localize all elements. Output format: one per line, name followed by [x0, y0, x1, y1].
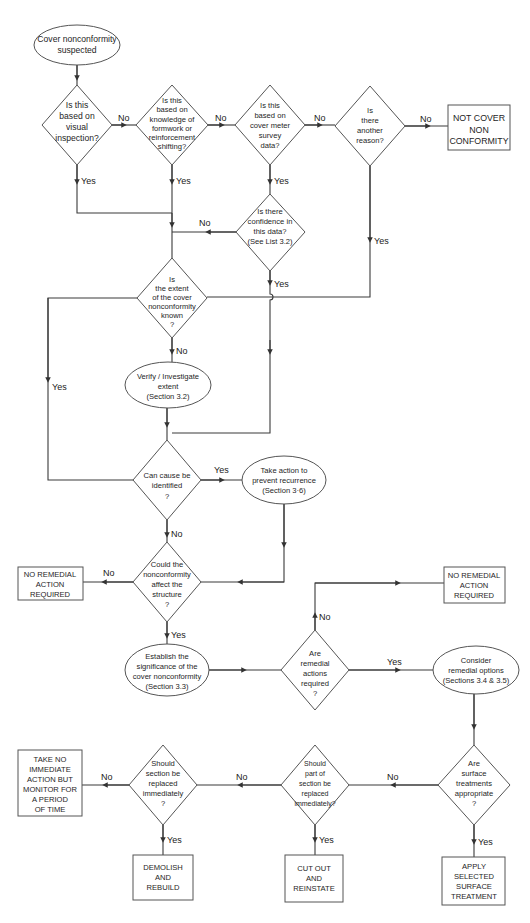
svg-text:(Section 3.3): (Section 3.3) [145, 682, 189, 691]
edge-label-yes: Yes [176, 176, 191, 186]
svg-text:part of: part of [305, 770, 325, 778]
svg-text:?: ? [313, 689, 317, 698]
decision-cover-meter: Is this based on cover meter survey data… [235, 85, 305, 165]
edge-label-no: No [199, 218, 211, 228]
svg-text:Verify / Investigate: Verify / Investigate [137, 372, 199, 381]
terminal-apply-surface-treatment: APPLY SELECTED SURFACE TREATMENT [442, 857, 505, 905]
svg-text:Is: Is [367, 106, 373, 115]
svg-text:TAKE NO: TAKE NO [34, 755, 67, 764]
svg-text:Should: Should [304, 760, 326, 767]
terminal-demolish-rebuild: DEMOLISH AND REBUILD [133, 855, 193, 900]
svg-text:visual: visual [66, 122, 88, 132]
decision-surface-treatments: Are surface treatments appropriate ? [438, 745, 510, 825]
decision-section-replace: Should section be replaced immediately ? [129, 745, 197, 825]
decision-another-reason: Is there another reason? [335, 86, 405, 166]
svg-text:based on: based on [254, 111, 285, 120]
decision-formwork-knowledge: Is this based on knowledge of formwork o… [136, 85, 208, 165]
svg-text:prevent recurrence: prevent recurrence [252, 476, 316, 485]
edge-label-no: No [101, 772, 113, 782]
svg-text:REINSTATE: REINSTATE [293, 884, 335, 893]
terminal-not-cover-nonconformity: NOT COVER NON CONFORMITY [448, 105, 510, 150]
svg-text:treatments: treatments [456, 779, 492, 788]
svg-text:reason?: reason? [356, 136, 383, 145]
start-node: Cover nonconformity suspected [34, 25, 120, 65]
svg-text:IMMEDIATE: IMMEDIATE [29, 765, 71, 774]
edge-label-no: No [118, 113, 130, 123]
svg-text:Is there: Is there [257, 207, 282, 216]
edge-label-yes: Yes [274, 176, 289, 186]
svg-text:inspection?: inspection? [55, 133, 99, 143]
edge-label-yes: Yes [167, 835, 182, 845]
svg-text:OF TIME: OF TIME [35, 805, 66, 814]
svg-text:shifting?: shifting? [158, 142, 186, 151]
svg-text:DEMOLISH: DEMOLISH [143, 863, 183, 872]
decision-part-replace: Should part of section be replaced immed… [281, 745, 349, 825]
svg-text:?: ? [165, 492, 169, 501]
terminal-no-remedial-right: NO REMEDIAL ACTION REQUIRED [444, 567, 505, 603]
svg-text:?: ? [161, 799, 165, 808]
svg-text:confidence in: confidence in [248, 217, 293, 226]
svg-text:Are: Are [468, 759, 480, 768]
svg-text:reinforcement: reinforcement [149, 133, 196, 142]
edge-label-yes: Yes [81, 176, 96, 186]
svg-text:immediately: immediately [143, 789, 184, 798]
decision-cause-identified: Can cause be identified ? [133, 440, 201, 520]
svg-text:Could the: Could the [151, 560, 184, 569]
svg-text:(Sections 3.4 & 3.5): (Sections 3.4 & 3.5) [443, 676, 510, 685]
svg-text:REQUIRED: REQUIRED [30, 590, 71, 599]
svg-text:knowledge of: knowledge of [150, 115, 196, 124]
svg-text:Should: Should [151, 759, 175, 768]
svg-text:replaced: replaced [302, 790, 329, 798]
edge-label-no: No [420, 114, 432, 124]
flowchart-canvas: No No No No Yes Yes Yes No Yes Yes No Ye… [0, 0, 530, 923]
svg-text:REQUIRED: REQUIRED [454, 591, 495, 600]
svg-text:based on: based on [156, 105, 187, 114]
edge-label-no: No [319, 612, 331, 622]
svg-text:TREATMENT: TREATMENT [451, 892, 497, 901]
svg-text:affect the: affect the [151, 580, 182, 589]
svg-text:formwork or: formwork or [152, 124, 193, 133]
svg-text:required: required [301, 679, 329, 688]
decision-affect-structure: Could the nonconformity affect the struc… [133, 542, 201, 622]
svg-text:Is: Is [169, 275, 175, 284]
svg-text:immediately?: immediately? [294, 800, 335, 808]
decision-extent-known: Is the extent of the cover nonconformity… [137, 258, 207, 338]
svg-text:Cover nonconformity: Cover nonconformity [37, 34, 117, 44]
svg-text:nonconformity: nonconformity [148, 302, 196, 311]
edge-label-yes: Yes [52, 382, 67, 392]
edge-label-no: No [176, 346, 188, 356]
edge-label-no: No [171, 529, 183, 539]
svg-text:NO REMEDIAL: NO REMEDIAL [24, 570, 76, 579]
svg-text:replaced: replaced [148, 779, 177, 788]
svg-text:?: ? [170, 320, 174, 329]
process-establish-significance: Establish the significance of the cover … [125, 644, 209, 696]
svg-text:SURFACE: SURFACE [456, 882, 492, 891]
process-consider-options: Consider remedial options (Sections 3.4 … [433, 646, 519, 694]
svg-text:significance of the: significance of the [137, 662, 198, 671]
terminal-no-remedial-left: NO REMEDIAL ACTION REQUIRED [18, 567, 83, 600]
svg-text:CUT OUT: CUT OUT [297, 864, 331, 873]
svg-text:AND: AND [306, 874, 323, 883]
svg-text:Is this: Is this [260, 101, 280, 110]
svg-text:(Section 3.2): (Section 3.2) [146, 392, 190, 401]
svg-text:section be: section be [146, 769, 181, 778]
svg-text:surface: surface [462, 769, 487, 778]
svg-text:ACTION: ACTION [36, 580, 65, 589]
svg-text:cover nonconformity: cover nonconformity [133, 672, 202, 681]
svg-text:ACTION: ACTION [460, 581, 489, 590]
svg-text:the extent: the extent [155, 284, 189, 293]
edge-label-yes: Yes [387, 657, 402, 667]
svg-text:AND: AND [155, 873, 172, 882]
svg-text:REBUILD: REBUILD [147, 883, 180, 892]
edge-label-no: No [387, 772, 399, 782]
decision-visual-inspection: Is this based on visual inspection? [42, 85, 112, 165]
svg-text:this data?: this data? [254, 227, 287, 236]
edge-label-yes: Yes [374, 236, 389, 246]
svg-text:suspected: suspected [57, 45, 96, 55]
svg-text:A PERIOD: A PERIOD [32, 795, 68, 804]
svg-text:of the cover: of the cover [152, 293, 192, 302]
svg-text:cover meter: cover meter [250, 121, 291, 130]
svg-text:NO REMEDIAL: NO REMEDIAL [448, 571, 500, 580]
svg-text:MONITOR FOR: MONITOR FOR [23, 785, 77, 794]
svg-text:remedial: remedial [300, 659, 329, 668]
